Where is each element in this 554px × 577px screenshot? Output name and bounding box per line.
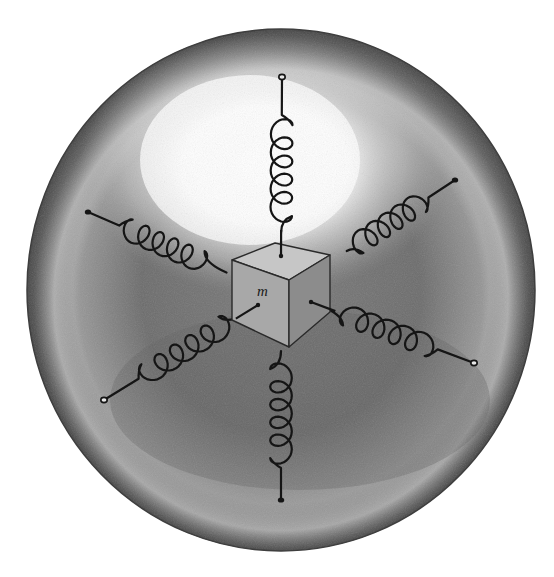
- spring-end-lower-right-icon: [471, 360, 477, 365]
- attach-point-lower-right-icon: [309, 300, 313, 304]
- attach-point-lower-left-icon: [256, 303, 260, 307]
- spring-end-upper-left-icon: [85, 209, 91, 214]
- spring-end-top-icon: [279, 74, 285, 79]
- spring-end-bottom-icon: [278, 497, 284, 502]
- mass-label: m: [257, 283, 268, 299]
- attach-point-top-icon: [279, 254, 283, 258]
- spring-end-lower-left-icon: [101, 397, 107, 402]
- sphere-spring-diagram: m: [0, 0, 554, 577]
- spring-end-upper-right-icon: [452, 177, 458, 182]
